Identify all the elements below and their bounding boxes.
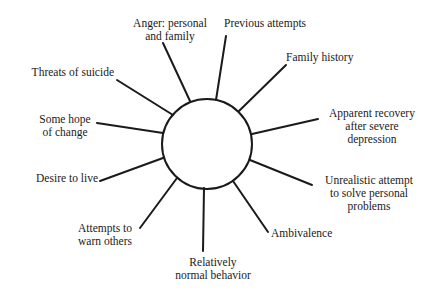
spoke-apparent-recovery [252, 119, 318, 134]
spoke-desire-to-live [100, 158, 163, 181]
spoke-family-history [239, 65, 286, 111]
spoke-attempts-to-warn [140, 178, 177, 228]
spoke-diagram [0, 0, 440, 293]
label-unrealistic-attempt: Unrealistic attempt to solve personal pr… [313, 174, 425, 213]
spoke-some-hope [97, 123, 163, 133]
label-ambivalence: Ambivalence [271, 227, 332, 240]
label-desire-to-live: Desire to live [0, 172, 98, 185]
label-previous-attempts: Previous attempts [224, 17, 306, 30]
spoke-unrealistic-attempt [250, 160, 312, 185]
label-apparent-recovery: Apparent recovery after severe depressio… [318, 107, 426, 146]
spoke-threats-of-suicide [117, 80, 173, 115]
spoke-ambivalence [233, 181, 268, 232]
spoke-relatively-normal [203, 188, 204, 251]
label-relatively-normal: Relatively normal behavior [160, 256, 266, 282]
label-some-hope: Some hope of change [32, 113, 98, 139]
center-circle [162, 99, 252, 189]
spoke-previous-attempts [216, 36, 226, 100]
label-family-history: Family history [286, 51, 353, 64]
label-anger: Anger: personal and family [110, 17, 230, 43]
label-threats-of-suicide: Threats of suicide [0, 66, 114, 79]
label-attempts-to-warn: Attempts to warn others [68, 222, 142, 248]
spoke-anger [163, 43, 190, 101]
